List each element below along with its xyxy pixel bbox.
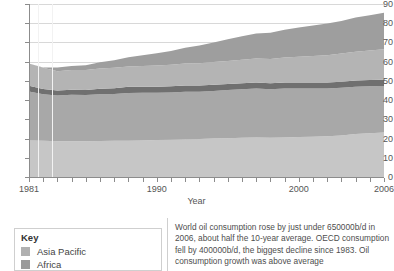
x-tick-mark-2001 <box>313 178 314 182</box>
legend-items: Asia PacificAfrica <box>21 246 155 270</box>
y-axis-line <box>29 4 30 177</box>
x-tick-mark-2003 <box>341 178 342 182</box>
caption-text: World oil consumption rose by just under… <box>175 222 390 268</box>
y-tick-mark-80 <box>25 23 29 24</box>
x-tick-mark-1994 <box>214 178 215 182</box>
y-tick-label-40: 40 <box>369 96 393 105</box>
x-tick-mark-2005 <box>370 178 371 182</box>
y-tick-mark-20 <box>25 139 29 140</box>
x-tick-mark-1987 <box>114 178 115 182</box>
y-tick-label-70: 70 <box>369 38 393 47</box>
x-tick-mark-1999 <box>285 178 286 182</box>
x-tick-label-2000: 2000 <box>289 184 309 194</box>
legend: Key Asia PacificAfrica <box>14 228 162 271</box>
x-tick-label-1990: 1990 <box>147 184 167 194</box>
x-tick-mark-1986 <box>100 178 101 182</box>
x-tick-label-2006: 2006 <box>374 184 394 194</box>
legend-title: Key <box>21 233 155 243</box>
plot-region: 0102030405060708090 1981199020002006 Yea… <box>0 0 393 200</box>
marker-line-1981 <box>38 4 39 177</box>
y-tick-mark-10 <box>25 158 29 159</box>
x-tick-mark-2000 <box>299 178 300 182</box>
x-axis-title: Year <box>0 196 393 206</box>
legend-item: Africa <box>21 259 155 270</box>
x-tick-mark-2004 <box>356 178 357 182</box>
x-tick-mark-1995 <box>228 178 229 182</box>
x-tick-mark-1993 <box>199 178 200 182</box>
plot-area <box>29 4 384 177</box>
y-tick-label-90: 90 <box>369 0 393 9</box>
x-tick-mark-1982 <box>43 178 44 182</box>
x-tick-mark-1996 <box>242 178 243 182</box>
y-tick-label-60: 60 <box>369 58 393 67</box>
legend-swatch-icon <box>21 247 30 256</box>
y-tick-label-20: 20 <box>369 135 393 144</box>
x-tick-mark-1990 <box>157 178 158 182</box>
y-tick-mark-70 <box>25 42 29 43</box>
y-tick-label-10: 10 <box>369 154 393 163</box>
x-tick-mark-1983 <box>57 178 58 182</box>
x-tick-mark-1992 <box>185 178 186 182</box>
x-tick-mark-1997 <box>256 178 257 182</box>
x-tick-mark-1991 <box>171 178 172 182</box>
y-tick-mark-50 <box>25 81 29 82</box>
caption-panel: World oil consumption rose by just under… <box>167 218 393 271</box>
y-tick-label-0: 0 <box>369 173 393 182</box>
marker-line-1982 <box>52 4 53 177</box>
x-tick-mark-2006 <box>384 178 385 182</box>
x-tick-mark-1985 <box>86 178 87 182</box>
legend-swatch-icon <box>21 260 30 269</box>
legend-item: Asia Pacific <box>21 246 155 257</box>
y-tick-mark-90 <box>25 4 29 5</box>
y-tick-label-80: 80 <box>369 19 393 28</box>
y-tick-mark-60 <box>25 62 29 63</box>
stacked-area-paths <box>29 4 384 177</box>
x-tick-label-1981: 1981 <box>19 184 39 194</box>
y-tick-label-30: 30 <box>369 115 393 124</box>
y-tick-mark-40 <box>25 100 29 101</box>
x-tick-mark-1998 <box>270 178 271 182</box>
x-tick-mark-1981 <box>29 178 30 182</box>
x-tick-mark-1988 <box>128 178 129 182</box>
x-tick-mark-1989 <box>143 178 144 182</box>
legend-item-label: Africa <box>37 260 61 270</box>
legend-item-label: Asia Pacific <box>37 247 86 257</box>
y-tick-label-50: 50 <box>369 77 393 86</box>
x-tick-mark-1984 <box>72 178 73 182</box>
x-axis-line <box>29 177 384 178</box>
y-tick-mark-30 <box>25 119 29 120</box>
x-tick-mark-2002 <box>327 178 328 182</box>
